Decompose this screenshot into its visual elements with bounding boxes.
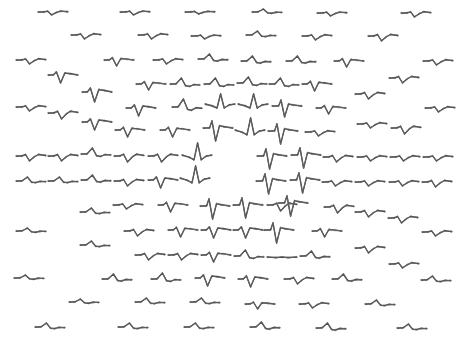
waveform-array-figure <box>0 0 466 353</box>
figure-background <box>0 0 466 353</box>
